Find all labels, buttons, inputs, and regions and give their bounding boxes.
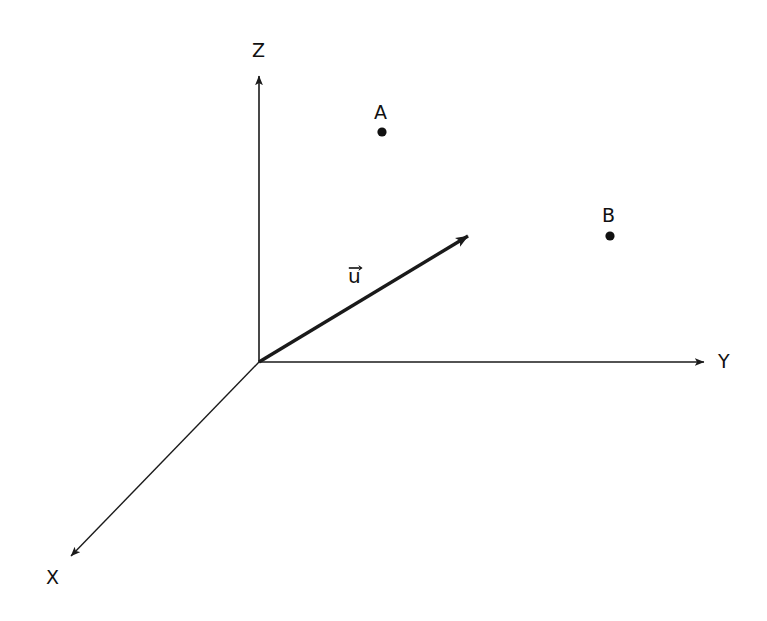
point-dot-a [377,127,386,136]
point-label-a: A [374,103,387,122]
axis-label-x: X [46,568,59,587]
point-label-b: B [602,206,615,225]
axis-label-y: Y [718,352,730,371]
vector-label-u-glyph: u [348,266,361,286]
vector-line-u [259,236,468,362]
vector-label-u: u [348,266,361,286]
diagram-vector-graphics [0,0,767,621]
vector-label-u-wrap: u [348,266,361,286]
axis-line-x [71,362,259,556]
point-dot-b [605,231,614,240]
axis-label-z: Z [252,41,265,60]
diagram-canvas: Z Y X A B u [0,0,767,621]
